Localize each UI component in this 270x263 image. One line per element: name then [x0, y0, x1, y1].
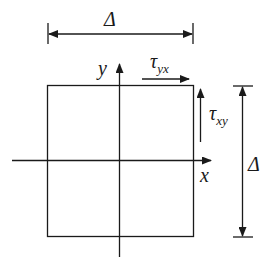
x-axis-label: x	[199, 164, 209, 186]
shear-yx-label: τyx	[150, 50, 169, 76]
shear-element-diagram: Δ Δ y x τyx τxy	[0, 0, 270, 263]
top-dimension-line	[48, 23, 193, 44]
top-dimension-label: Δ	[103, 8, 116, 30]
right-dimension-label: Δ	[247, 153, 260, 175]
shear-xy-label: τxy	[209, 102, 228, 128]
diagram-svg: Δ Δ y x τyx τxy	[0, 0, 270, 263]
y-axis-label: y	[96, 57, 107, 80]
